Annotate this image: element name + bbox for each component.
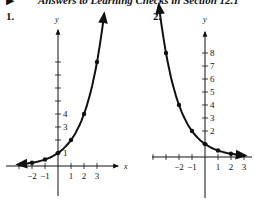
x-tick-label: 2 bbox=[82, 171, 87, 181]
x-tick-label: −1 bbox=[40, 171, 50, 181]
x-tick-label: 3 bbox=[242, 162, 247, 172]
data-point bbox=[30, 161, 34, 165]
graph-2: −2−11232345678y bbox=[152, 5, 252, 198]
x-axis-label: x bbox=[123, 162, 128, 171]
y-tick-label: 4 bbox=[63, 109, 68, 119]
y-tick-label: 3 bbox=[63, 122, 68, 132]
graph-1: −2−1123134yx bbox=[6, 14, 128, 196]
data-point bbox=[216, 148, 220, 152]
data-point bbox=[235, 152, 239, 156]
y-tick-label: 7 bbox=[210, 61, 215, 71]
y-tick-label: 4 bbox=[210, 100, 215, 110]
data-point bbox=[56, 151, 60, 155]
x-tick-label: 2 bbox=[229, 162, 234, 172]
data-point bbox=[82, 112, 86, 116]
y-tick-label: 5 bbox=[210, 87, 215, 97]
function-curve bbox=[159, 5, 246, 156]
x-tick-label: −2 bbox=[174, 162, 184, 172]
data-point bbox=[69, 138, 73, 142]
data-point bbox=[229, 152, 233, 156]
data-point bbox=[164, 51, 168, 55]
x-tick-label: −2 bbox=[27, 171, 37, 181]
y-tick-label: 2 bbox=[210, 126, 215, 136]
data-point bbox=[43, 157, 47, 161]
x-tick-label: −1 bbox=[187, 162, 197, 172]
function-curve bbox=[18, 14, 105, 165]
y-axis-label: y bbox=[202, 15, 207, 24]
data-point bbox=[177, 103, 181, 107]
data-point bbox=[203, 142, 207, 146]
x-tick-label: 1 bbox=[69, 171, 74, 181]
data-point bbox=[95, 60, 99, 64]
y-tick-label: 8 bbox=[210, 48, 215, 58]
graphs-canvas: −2−1123134yx −2−11232345678y bbox=[0, 0, 255, 202]
x-tick-label: 1 bbox=[216, 162, 221, 172]
x-tick-label: 3 bbox=[95, 171, 100, 181]
y-axis-label: y bbox=[54, 15, 59, 24]
y-tick-label: 3 bbox=[210, 113, 215, 123]
data-point bbox=[190, 129, 194, 133]
y-tick-label: 6 bbox=[210, 74, 215, 84]
